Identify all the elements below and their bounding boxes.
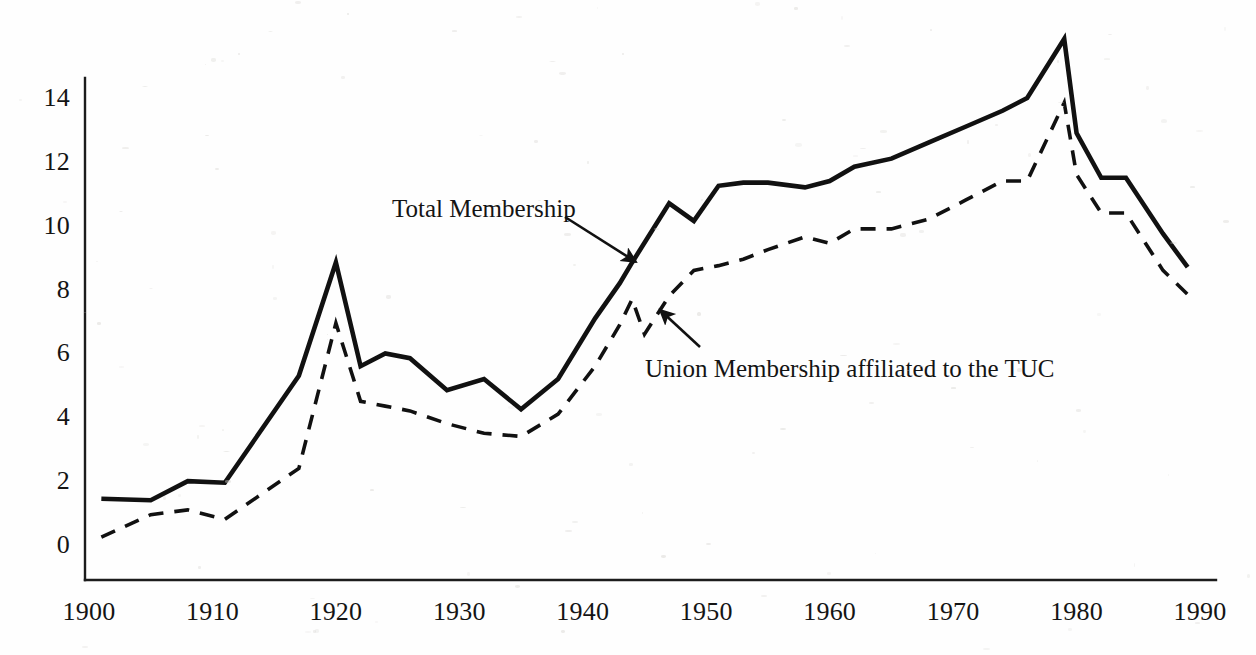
texture-speck: [271, 231, 276, 235]
x-tick-label: 1900: [63, 597, 116, 627]
arrow-tuc-membership: [660, 310, 700, 347]
texture-speck: [1195, 622, 1200, 624]
annotation-arrows: [565, 217, 700, 347]
texture-speck: [893, 343, 900, 345]
x-tick-label: 1990: [1174, 597, 1227, 627]
texture-speck: [82, 646, 88, 648]
texture-speck: [853, 155, 858, 157]
texture-speck: [313, 630, 316, 633]
x-tick-label: 1910: [186, 597, 239, 627]
texture-speck: [178, 494, 181, 497]
x-tick-label: 1940: [556, 597, 609, 627]
texture-speck: [198, 566, 201, 569]
chart-container: 02468101214 1900191019201930194019501960…: [0, 0, 1256, 655]
texture-speck: [1083, 430, 1086, 433]
texture-speck: [272, 265, 274, 269]
texture-speck: [1076, 409, 1081, 412]
texture-speck: [596, 413, 602, 416]
texture-speck: [983, 648, 990, 650]
axes: [85, 78, 1216, 580]
texture-speck: [1104, 58, 1110, 60]
texture-speck: [273, 297, 277, 300]
texture-speck: [143, 443, 149, 446]
texture-speck: [1028, 153, 1031, 157]
texture-speck: [549, 61, 556, 62]
texture-speck: [919, 230, 924, 233]
y-tick-label: 10: [44, 211, 70, 241]
texture-speck: [1224, 27, 1226, 31]
y-tick-label: 8: [57, 275, 70, 305]
texture-speck: [880, 130, 887, 133]
y-tick-label: 12: [44, 147, 70, 177]
y-tick-label: 2: [57, 466, 70, 496]
texture-speck: [515, 585, 520, 588]
texture-speck: [967, 140, 969, 144]
texture-speck: [142, 86, 148, 87]
texture-speck: [163, 496, 166, 500]
texture-speck: [222, 429, 224, 431]
texture-speck: [386, 295, 391, 299]
chart-plot-area: [0, 0, 1256, 655]
texture-speck: [1161, 119, 1167, 123]
texture-speck: [508, 406, 515, 409]
arrow-total-membership: [565, 217, 636, 262]
texture-speck: [755, 2, 760, 6]
texture-speck: [794, 7, 798, 10]
texture-speck: [565, 530, 572, 532]
x-tick-label: 1950: [680, 597, 733, 627]
texture-speck: [305, 631, 311, 633]
x-tick-label: 1930: [433, 597, 486, 627]
texture-speck: [467, 572, 470, 576]
series-line-tuc-membership: [101, 103, 1187, 537]
texture-speck: [122, 147, 129, 149]
texture-speck: [1146, 86, 1149, 90]
texture-speck: [827, 572, 831, 575]
texture-speck: [761, 595, 767, 597]
x-tick-label: 1960: [803, 597, 856, 627]
annotation-label-tuc-membership: Union Membership affiliated to the TUC: [645, 355, 1054, 383]
texture-speck: [341, 76, 345, 79]
annotation-label-total-membership: Total Membership: [392, 195, 576, 223]
texture-speck: [572, 521, 578, 523]
texture-speck: [1017, 368, 1022, 372]
x-tick-label: 1970: [927, 597, 980, 627]
texture-speck: [516, 16, 522, 18]
texture-speck: [559, 72, 566, 75]
y-tick-label: 14: [44, 83, 70, 113]
texture-speck: [587, 161, 589, 164]
texture-speck: [347, 13, 349, 15]
texture-speck: [238, 53, 240, 55]
texture-speck: [622, 53, 624, 55]
texture-speck: [900, 233, 906, 237]
texture-speck: [841, 16, 843, 20]
texture-speck: [215, 168, 219, 170]
texture-speck: [629, 463, 633, 466]
texture-speck: [119, 211, 123, 212]
x-tick-label: 1980: [1050, 597, 1103, 627]
texture-speck: [1196, 130, 1203, 132]
texture-speck: [1057, 60, 1059, 63]
texture-speck: [225, 480, 231, 483]
texture-speck: [869, 402, 874, 404]
texture-speck: [795, 143, 802, 147]
texture-speck: [951, 387, 956, 389]
texture-speck: [452, 30, 457, 32]
data-series-group: [101, 39, 1187, 537]
texture-speck: [119, 366, 124, 368]
y-tick-label: 4: [57, 402, 70, 432]
texture-speck: [197, 435, 199, 439]
texture-speck: [1097, 313, 1101, 316]
texture-speck: [221, 60, 224, 62]
texture-speck: [498, 203, 502, 205]
y-tick-label: 0: [57, 530, 70, 560]
texture-speck: [1190, 186, 1195, 188]
x-tick-label: 1920: [309, 597, 362, 627]
texture-speck: [63, 201, 67, 203]
texture-speck: [752, 452, 755, 454]
series-line-total-membership: [101, 39, 1187, 500]
texture-speck: [19, 99, 22, 101]
y-tick-label: 6: [57, 338, 70, 368]
texture-speck: [661, 555, 666, 558]
texture-speck: [876, 191, 881, 193]
texture-speck: [1068, 628, 1072, 631]
